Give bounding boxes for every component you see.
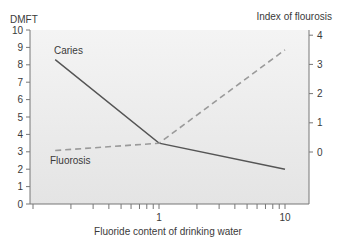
left-tick-label: 4 (17, 129, 23, 140)
caries-label: Caries (54, 45, 83, 56)
chart-container: 012345678910 01234 110 DMFT Index of flo… (0, 0, 337, 251)
left-tick-label: 0 (17, 199, 23, 210)
left-tick-label: 7 (17, 77, 23, 88)
left-tick-label: 5 (17, 112, 23, 123)
right-tick-label: 0 (317, 147, 323, 158)
x-axis-ticks: 110 (33, 204, 291, 223)
x-tick-label: 1 (156, 212, 162, 223)
left-tick-label: 6 (17, 94, 23, 105)
left-tick-label: 10 (12, 25, 24, 36)
right-tick-label: 2 (317, 88, 323, 99)
left-tick-label: 8 (17, 59, 23, 70)
right-tick-label: 1 (317, 117, 323, 128)
left-axis-title: DMFT (10, 14, 38, 25)
right-tick-label: 4 (317, 30, 323, 41)
x-axis-title: Fluoride content of drinking water (94, 226, 243, 237)
left-tick-label: 2 (17, 164, 23, 175)
fluorosis-label: Fluorosis (50, 155, 91, 166)
x-tick-label: 10 (279, 212, 291, 223)
right-tick-label: 3 (317, 59, 323, 70)
left-tick-label: 9 (17, 42, 23, 53)
chart-svg: 012345678910 01234 110 DMFT Index of flo… (0, 0, 337, 251)
left-axis-ticks: 012345678910 (12, 25, 30, 210)
left-tick-label: 1 (17, 181, 23, 192)
plot-area (30, 30, 309, 204)
right-axis-title: Index of flourosis (256, 11, 332, 22)
right-axis-ticks: 01234 (309, 30, 323, 158)
left-tick-label: 3 (17, 146, 23, 157)
